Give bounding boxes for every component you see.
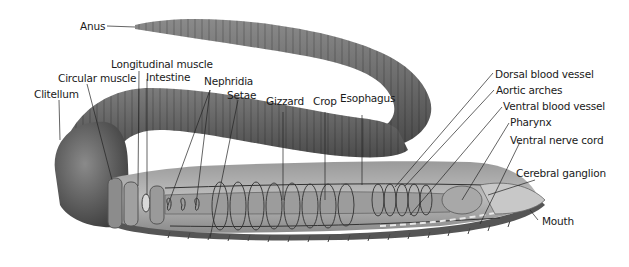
label-ventral-blood-vessel: Ventral blood vessel xyxy=(503,100,605,112)
label-anus: Anus xyxy=(80,20,105,32)
label-esophagus: Esophagus xyxy=(340,92,395,104)
intestine-section xyxy=(142,194,150,212)
label-intestine: Intestine xyxy=(146,71,190,83)
label-crop: Crop xyxy=(313,95,337,107)
circular-muscle-layer xyxy=(108,178,122,228)
label-mouth: Mouth xyxy=(542,215,574,227)
label-longitudinal-muscle: Longitudinal muscle xyxy=(111,58,213,70)
label-setae: Setae xyxy=(227,89,256,101)
label-dorsal-blood-vessel: Dorsal blood vessel xyxy=(495,68,594,80)
label-clitellum: Clitellum xyxy=(34,88,79,100)
longitudinal-muscle-layer xyxy=(124,182,138,226)
label-cerebral-ganglion: Cerebral ganglion xyxy=(516,167,606,179)
label-aortic-arches: Aortic arches xyxy=(496,84,562,96)
label-gizzard: Gizzard xyxy=(266,95,304,107)
label-nephridia: Nephridia xyxy=(204,75,253,87)
label-pharynx: Pharynx xyxy=(510,116,551,128)
label-ventral-nerve-cord: Ventral nerve cord xyxy=(510,134,603,146)
earthworm-diagram: Anus Longitudinal muscle Circular muscle… xyxy=(0,0,629,267)
label-circular-muscle: Circular muscle xyxy=(58,72,136,84)
